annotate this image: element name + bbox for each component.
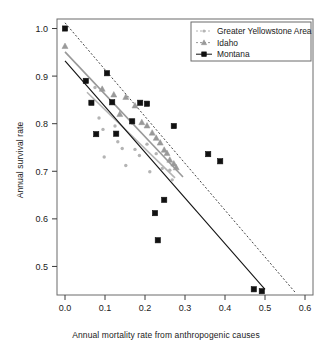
reference-trend-line [65, 23, 295, 292]
data-point-idaho [62, 43, 68, 49]
data-point-greater-yellowstone-area [155, 152, 158, 155]
data-point-montana [89, 100, 94, 105]
data-point-montana [110, 100, 115, 105]
data-point-greater-yellowstone-area [168, 169, 171, 172]
x-tick-label: 0.0 [59, 303, 72, 313]
y-tick-label: 0.5 [35, 262, 48, 272]
data-point-greater-yellowstone-area [101, 128, 104, 131]
data-point-montana [83, 78, 88, 83]
y-tick-label: 0.6 [35, 214, 48, 224]
data-point-idaho [111, 92, 117, 98]
trend-line-montana [65, 61, 265, 289]
data-point-greater-yellowstone-area [133, 148, 136, 151]
data-point-idaho [149, 130, 155, 136]
data-point-greater-yellowstone-area [116, 140, 119, 143]
data-point-greater-yellowstone-area [161, 167, 164, 170]
data-point-greater-yellowstone-area [97, 116, 100, 119]
x-tick-label: 0.6 [299, 303, 312, 313]
y-tick-label: 0.9 [35, 72, 48, 82]
legend-label-greater-yellowstone-area: Greater Yellowstone Area [217, 26, 312, 36]
data-point-greater-yellowstone-area [121, 147, 124, 150]
data-point-greater-yellowstone-area [138, 154, 141, 157]
x-tick-label: 0.1 [99, 303, 112, 313]
legend-label-montana: Montana [217, 49, 250, 59]
data-point-idaho [132, 103, 138, 109]
data-point-greater-yellowstone-area [93, 86, 96, 89]
data-point-montana [152, 211, 157, 216]
trend-line-greater-yellowstone-area [87, 92, 175, 178]
legend-label-idaho: Idaho [217, 38, 238, 48]
data-point-greater-yellowstone-area [171, 178, 174, 181]
x-tick-label: 0.3 [179, 303, 192, 313]
data-point-greater-yellowstone-area [145, 142, 148, 145]
data-point-montana [251, 287, 256, 292]
data-point-greater-yellowstone-area [103, 155, 106, 158]
data-point-greater-yellowstone-area [113, 124, 116, 127]
legend-marker-square-icon [202, 52, 207, 57]
data-point-idaho [153, 135, 159, 141]
data-point-montana [171, 123, 176, 128]
data-point-montana [114, 131, 119, 136]
data-point-montana [218, 159, 223, 164]
data-point-montana [94, 132, 99, 137]
data-point-greater-yellowstone-area [124, 164, 127, 167]
data-point-montana [104, 71, 109, 76]
y-tick-label: 0.7 [35, 167, 48, 177]
scatter-plot-figure: Annual survival rate Annual mortality ra… [0, 0, 332, 350]
legend-marker-dot-icon [202, 29, 205, 32]
data-point-idaho [144, 122, 150, 128]
y-tick-label: 1.0 [35, 24, 48, 34]
data-point-greater-yellowstone-area [148, 170, 151, 173]
data-point-montana [206, 152, 211, 157]
y-tick-label: 0.8 [35, 119, 48, 129]
data-point-montana [130, 119, 135, 124]
data-point-montana [138, 100, 143, 105]
plot-canvas: 0.00.10.20.30.40.50.60.50.60.70.80.91.0G… [0, 0, 332, 350]
trend-line-idaho [65, 52, 183, 177]
data-point-montana [155, 238, 160, 243]
data-point-montana [144, 101, 149, 106]
data-point-idaho [139, 119, 145, 125]
data-point-idaho [167, 157, 173, 163]
x-tick-label: 0.4 [219, 303, 232, 313]
data-point-montana [259, 289, 264, 294]
data-point-montana [162, 197, 167, 202]
x-tick-label: 0.5 [259, 303, 272, 313]
x-tick-label: 0.2 [139, 303, 152, 313]
data-point-montana [62, 26, 67, 31]
